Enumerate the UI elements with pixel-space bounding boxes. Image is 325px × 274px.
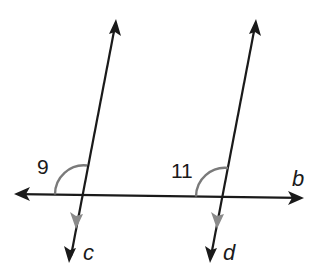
angle-9-label: 9 xyxy=(37,156,49,177)
arrowhead-top-d-icon xyxy=(249,19,261,36)
line-b-label: b xyxy=(292,168,304,190)
line-b xyxy=(14,187,304,205)
line-d-label: d xyxy=(223,242,235,264)
line-c xyxy=(64,19,121,263)
arrowhead-top-c-icon xyxy=(109,19,121,36)
line-c-label: c xyxy=(83,242,94,264)
arrowhead-bottom-d-icon xyxy=(205,246,217,263)
angle-11-label: 11 xyxy=(171,160,193,181)
parallel-mark-c-icon xyxy=(70,212,83,229)
angle-9-arc xyxy=(55,165,87,194)
diagram-canvas xyxy=(0,0,325,274)
parallel-lines-diagram: 9 11 b c d xyxy=(0,0,325,274)
parallel-mark-d-icon xyxy=(211,212,224,229)
arrowhead-bottom-c-icon xyxy=(64,246,76,263)
line-d xyxy=(205,19,261,263)
